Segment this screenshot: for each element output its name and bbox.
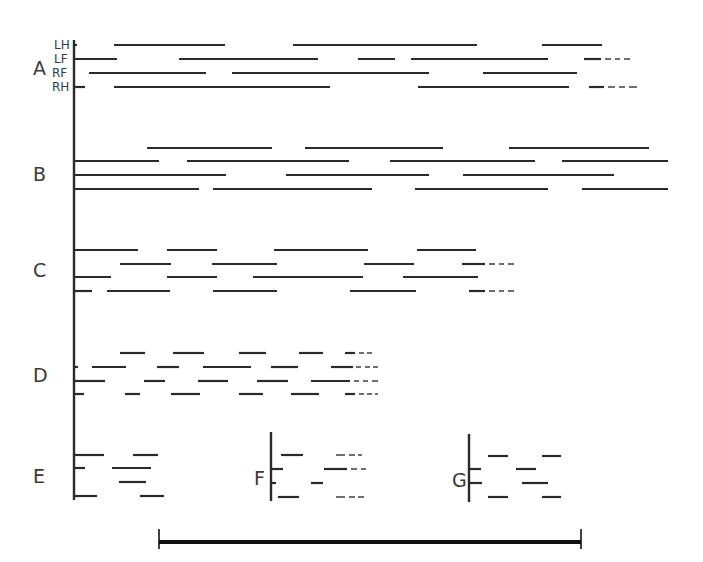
panel-label-e: E <box>33 465 45 487</box>
panel-d <box>74 353 378 394</box>
panel-a <box>74 45 637 87</box>
limb-label-lh: LH <box>54 38 70 52</box>
support-phase-bars <box>74 45 668 497</box>
panel-b <box>74 148 668 189</box>
gait-diagram: LHLFRFRHABCDEFG <box>0 0 703 562</box>
panel-label-g: G <box>452 469 467 491</box>
panel-label-d: D <box>33 364 48 386</box>
limb-label-rf: RF <box>52 66 67 80</box>
limb-label-rh: RH <box>52 80 69 94</box>
panel-g <box>469 456 561 497</box>
panel-f <box>271 455 366 497</box>
panel-c <box>74 250 514 291</box>
panel-label-f: F <box>254 467 265 489</box>
panel-label-c: C <box>33 259 46 281</box>
limb-label-lf: LF <box>54 52 68 66</box>
panel-label-b: B <box>33 163 46 185</box>
scale-bar <box>159 529 581 549</box>
time-axes <box>74 40 469 502</box>
scale-bar-line <box>159 540 581 544</box>
panel-e <box>74 455 164 496</box>
panel-label-a: A <box>33 57 46 79</box>
